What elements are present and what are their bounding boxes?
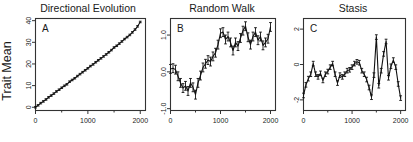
panel-a-title: Directional Evolution [40, 2, 136, 14]
y-tick-label: 1.0 [160, 30, 167, 40]
x-tick-label: 1000 [344, 117, 360, 124]
y-tick-label: 0.0 [160, 67, 167, 77]
x-tick-label: 1000 [80, 117, 96, 124]
y-tick-label: 40 [25, 17, 32, 25]
panel-directional-evolution: Directional Evolution A 0100020000102030… [0, 0, 150, 142]
panel-c-series-line [304, 37, 401, 98]
y-tick-label: 30 [25, 38, 32, 46]
panel-random-walk: Random Walk B 010002000-1.00.01.0 [150, 0, 283, 142]
y-tick-label: -1.0 [160, 103, 167, 115]
panel-c-title: Stasis [339, 2, 368, 14]
panel-a-plot-area: A 010002000010203040 [25, 17, 148, 124]
x-tick-label: 2000 [263, 117, 279, 124]
panel-c-plot-area: C 010002000-202 [293, 19, 408, 124]
x-tick-label: 2000 [132, 117, 148, 124]
y-tick-label: 20 [25, 60, 32, 68]
y-tick-label: -2 [293, 97, 300, 103]
panel-stasis: Stasis C 010002000-202 [283, 0, 413, 142]
panel-b-letter: B [177, 23, 184, 34]
panel-b-ticks [167, 35, 271, 114]
panel-a-ticks [32, 21, 140, 114]
panel-b-plot-area: B 010002000-1.00.01.0 [160, 19, 278, 124]
y-tick-label: 2 [293, 27, 300, 31]
x-tick-label: 0 [34, 117, 38, 124]
three-panel-figure: Trait Mean Directional Evolution A 01000… [0, 0, 413, 142]
y-tick-label: 0 [293, 62, 300, 66]
x-tick-label: 0 [169, 117, 173, 124]
x-tick-label: 2000 [393, 117, 409, 124]
panel-c-letter: C [310, 23, 317, 34]
x-tick-label: 0 [302, 117, 306, 124]
panel-a-letter: A [42, 23, 49, 34]
y-tick-label: 10 [25, 82, 32, 90]
x-tick-label: 1000 [213, 117, 229, 124]
y-tick-label: 0 [25, 105, 32, 109]
panel-a-error-bars [34, 21, 142, 108]
panel-b-title: Random Walk [189, 2, 255, 14]
